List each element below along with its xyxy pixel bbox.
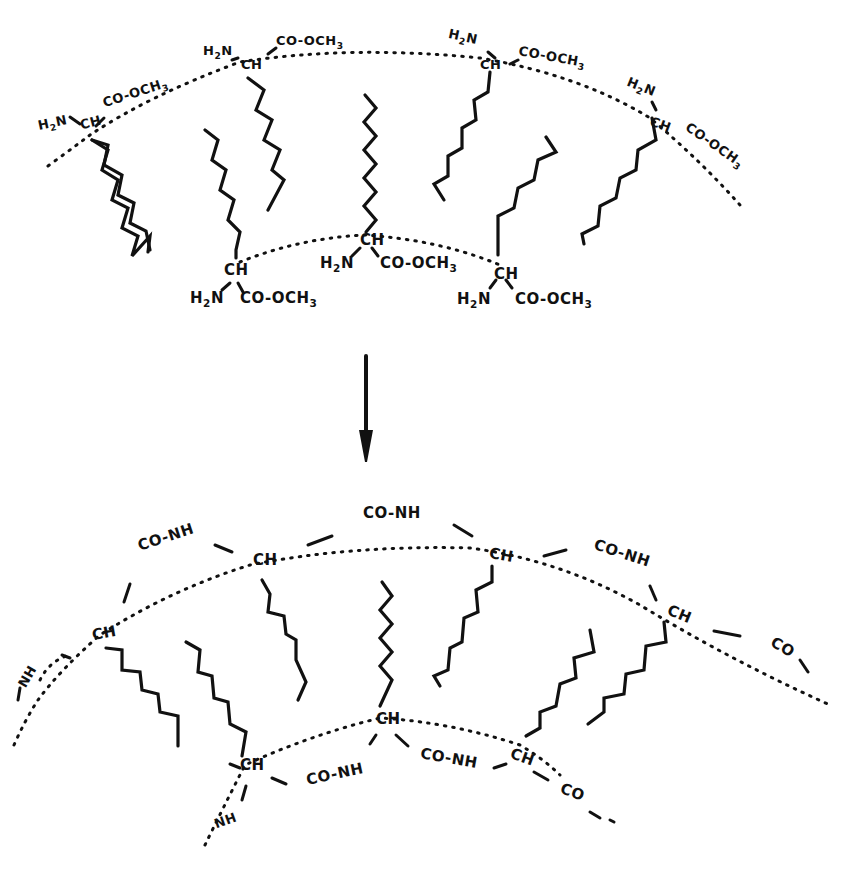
alkyl-chain — [380, 582, 392, 706]
alkyl-chain — [262, 580, 306, 700]
amine-label: H2N — [203, 44, 233, 61]
ch-label: CH — [494, 267, 519, 282]
ch-label: CH — [480, 58, 501, 71]
alkyl-chain — [434, 566, 492, 686]
bottom-lower-backbone — [205, 718, 560, 845]
alkyl-chain — [526, 630, 594, 736]
ester-label: CO-OCH3 — [515, 292, 592, 310]
ch-label: CH — [224, 263, 249, 278]
ch-label: CH — [240, 758, 265, 773]
amine-label: H2N — [457, 292, 491, 310]
ch-label: CH — [253, 553, 278, 568]
ester-label: CO-OCH3 — [380, 256, 457, 274]
reaction-diagram: H2N CH CO-OCH3 H2N CH CO-OCH3 H2N CH CO-… — [0, 0, 861, 874]
ester-label: CO-OCH3 — [276, 34, 344, 51]
alkyl-chain — [588, 622, 666, 724]
diagram-graphics — [0, 0, 861, 874]
amine-label: H2N — [190, 291, 224, 309]
alkyl-chain — [434, 72, 490, 200]
ch-label: CH — [376, 712, 401, 727]
alkyl-chain — [205, 130, 240, 258]
ch-label: CH — [488, 546, 515, 565]
alkyl-chain — [582, 118, 656, 244]
alkyl-chain — [106, 648, 178, 746]
ch-label: CH — [241, 58, 262, 71]
alkyl-chain — [364, 95, 376, 232]
top-upper-backbone — [48, 52, 740, 205]
amide-label: CO-NH — [363, 506, 421, 521]
alkyl-chain — [92, 140, 150, 250]
bottom-upper-backbone — [14, 548, 830, 745]
alkyl-chain — [498, 137, 556, 255]
ch-label: CH — [360, 233, 385, 248]
amine-label: H2N — [320, 256, 354, 274]
alkyl-chain — [248, 78, 284, 210]
ch-label: CH — [91, 624, 118, 643]
reaction-arrow-head — [359, 430, 373, 462]
alkyl-chain — [186, 642, 246, 756]
ester-label: CO-OCH3 — [240, 291, 317, 309]
